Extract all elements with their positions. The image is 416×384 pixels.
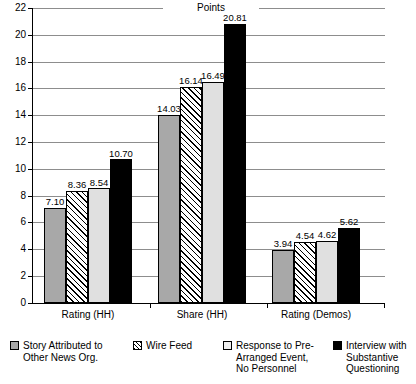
bar-rating-hh-response-prearranged xyxy=(88,188,110,302)
bar-value-label: 5.62 xyxy=(335,217,363,227)
x-axis-category-label: Rating (HH) xyxy=(38,309,138,320)
y-axis-tick-label: 0 xyxy=(2,298,26,308)
chart-legend: Story Attributed to Other News Org. Wire… xyxy=(0,336,416,384)
legend-item-interview-substantive: Interview with Substantive Questioning xyxy=(333,340,416,375)
bar-share-hh-response-prearranged xyxy=(202,82,224,303)
bar-chart: 22 20 18 16 14 12 10 8 6 4 2 0 xyxy=(0,0,416,384)
bar-rating-demos-wire-feed xyxy=(294,242,316,303)
legend-swatch-icon xyxy=(133,341,142,350)
plot-area: 22 20 18 16 14 12 10 8 6 4 2 0 xyxy=(0,0,416,330)
y-axis-tick-label: 2 xyxy=(2,271,26,281)
legend-item-wire-feed: Wire Feed xyxy=(133,340,213,352)
legend-label-line1: Wire Feed xyxy=(146,340,192,351)
y-axis-tick-label: 6 xyxy=(2,217,26,227)
gridline xyxy=(32,62,385,63)
y-axis-tick-label: 18 xyxy=(2,57,26,67)
x-axis-tick xyxy=(267,303,268,308)
bar-value-label: 20.81 xyxy=(220,13,250,23)
x-axis-tick xyxy=(150,303,151,308)
y-axis-tick-label: 8 xyxy=(2,191,26,201)
y-axis-tick-label: 12 xyxy=(2,137,26,147)
y-axis-tick-label: 14 xyxy=(2,110,26,120)
bar-share-hh-interview-substantive xyxy=(224,24,246,303)
bar-rating-demos-story-attributed xyxy=(272,250,294,303)
legend-label: Story Attributed to Other News Org. xyxy=(23,340,103,363)
legend-label: Wire Feed xyxy=(146,340,192,352)
y-axis-tick-label: 20 xyxy=(2,30,26,40)
x-axis-category-label: Share (HH) xyxy=(152,309,252,320)
legend-label-line2: Other News Org. xyxy=(23,352,98,363)
y-axis-line xyxy=(32,8,33,303)
legend-swatch-icon xyxy=(223,341,232,350)
chart-title: Points xyxy=(163,2,259,13)
legend-label: Interview with Substantive Questioning xyxy=(346,340,407,375)
y-axis-tick-label: 22 xyxy=(2,3,26,13)
x-axis-category-label: Rating (Demos) xyxy=(266,309,366,320)
bar-value-label: 10.70 xyxy=(106,149,136,159)
legend-label-line1: Interview with xyxy=(346,340,407,351)
legend-label-line1: Story Attributed to xyxy=(23,340,103,351)
legend-label-line2: Substantive xyxy=(346,352,398,363)
bar-share-hh-wire-feed xyxy=(180,87,202,303)
bar-rating-demos-interview-substantive xyxy=(338,228,360,303)
legend-label-line2: Arranged Event, xyxy=(236,352,308,363)
legend-item-response-prearranged: Response to Pre- Arranged Event, No Pers… xyxy=(223,340,331,375)
legend-swatch-icon xyxy=(10,341,19,350)
x-axis-line xyxy=(32,303,385,304)
legend-label-line3: Questioning xyxy=(346,363,399,374)
bar-value-label: 8.54 xyxy=(85,178,113,188)
legend-label: Response to Pre- Arranged Event, No Pers… xyxy=(236,340,314,375)
bar-rating-hh-wire-feed xyxy=(66,191,88,303)
legend-label-line3: No Personnel xyxy=(236,363,297,374)
bar-rating-hh-interview-substantive xyxy=(110,159,132,302)
y-axis-tick-label: 16 xyxy=(2,83,26,93)
y-axis-tick-label: 4 xyxy=(2,244,26,254)
bar-rating-demos-response-prearranged xyxy=(316,241,338,303)
bar-value-label: 7.10 xyxy=(41,197,69,207)
y-axis-tick-label: 10 xyxy=(2,164,26,174)
legend-swatch-icon xyxy=(333,341,342,350)
bar-value-label: 4.62 xyxy=(313,230,341,240)
gridline xyxy=(32,35,385,36)
legend-label-line1: Response to Pre- xyxy=(236,340,314,351)
bar-rating-hh-story-attributed xyxy=(44,208,66,303)
bar-share-hh-story-attributed xyxy=(158,115,180,303)
legend-item-story-attributed: Story Attributed to Other News Org. xyxy=(10,340,122,363)
x-axis-tick xyxy=(384,303,385,308)
